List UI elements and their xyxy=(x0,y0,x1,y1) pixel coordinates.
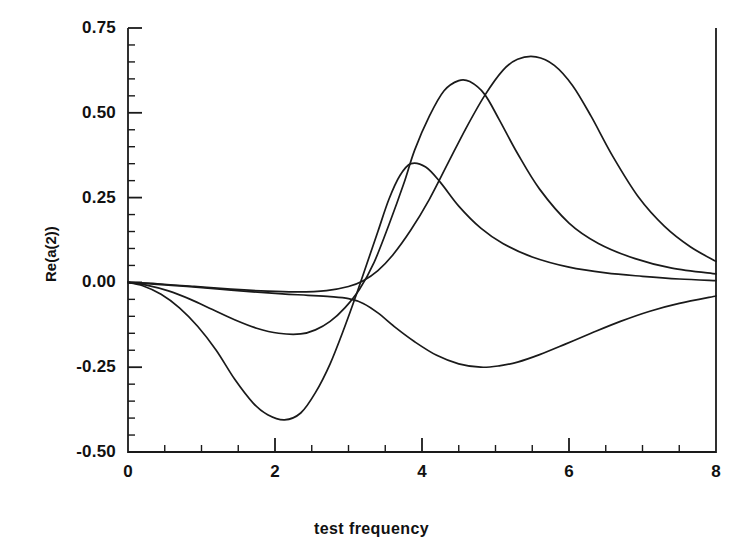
y-tick-label: -0.50 xyxy=(76,442,116,462)
y-tick-label: 0.00 xyxy=(82,272,116,292)
x-tick-label: 4 xyxy=(402,462,442,482)
y-tick-label: 0.50 xyxy=(82,103,116,123)
x-tick-label: 8 xyxy=(696,462,736,482)
figure-container: -0.50-0.250.000.250.500.75 02468 Re(a(2)… xyxy=(0,0,743,554)
curve-curve-1 xyxy=(128,163,716,420)
curve-curve-2 xyxy=(128,80,716,335)
data-curves xyxy=(128,56,716,419)
x-tick-label: 0 xyxy=(108,462,148,482)
x-tick-label: 2 xyxy=(255,462,295,482)
x-axis-title: test frequency xyxy=(0,520,743,538)
curve-curve-4 xyxy=(128,282,716,367)
axes-frame xyxy=(128,28,716,452)
x-tick-label: 6 xyxy=(549,462,589,482)
y-tick-label: -0.25 xyxy=(76,357,116,377)
y-tick-label: 0.75 xyxy=(82,18,116,38)
y-axis-title: Re(a(2)) xyxy=(42,226,59,282)
y-tick-label: 0.25 xyxy=(82,188,116,208)
